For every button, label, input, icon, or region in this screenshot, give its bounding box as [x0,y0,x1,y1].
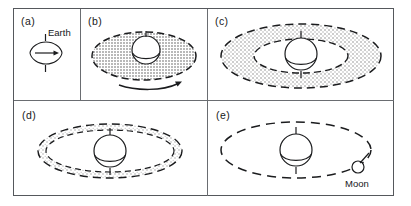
rotation-arrow-curve-b [119,84,177,89]
panel-d: (d) [14,101,207,196]
panel-e: (e) Moon [208,101,394,196]
panel-a-graphic [14,9,80,100]
panel-e-graphic [208,101,394,196]
moon-axis-line [360,153,369,163]
panel-a: (a) Earth [14,9,80,100]
panel-c: (c) [208,9,394,100]
panel-d-graphic [14,101,207,196]
panel-b-graphic [81,9,207,100]
rotation-arrow-head-icon [54,51,60,56]
panel-c-graphic [208,9,394,100]
figure-root: (a) Earth (b) [0,0,411,206]
panel-b: (b) [81,9,207,100]
figure-frame: (a) Earth (b) [13,8,394,196]
